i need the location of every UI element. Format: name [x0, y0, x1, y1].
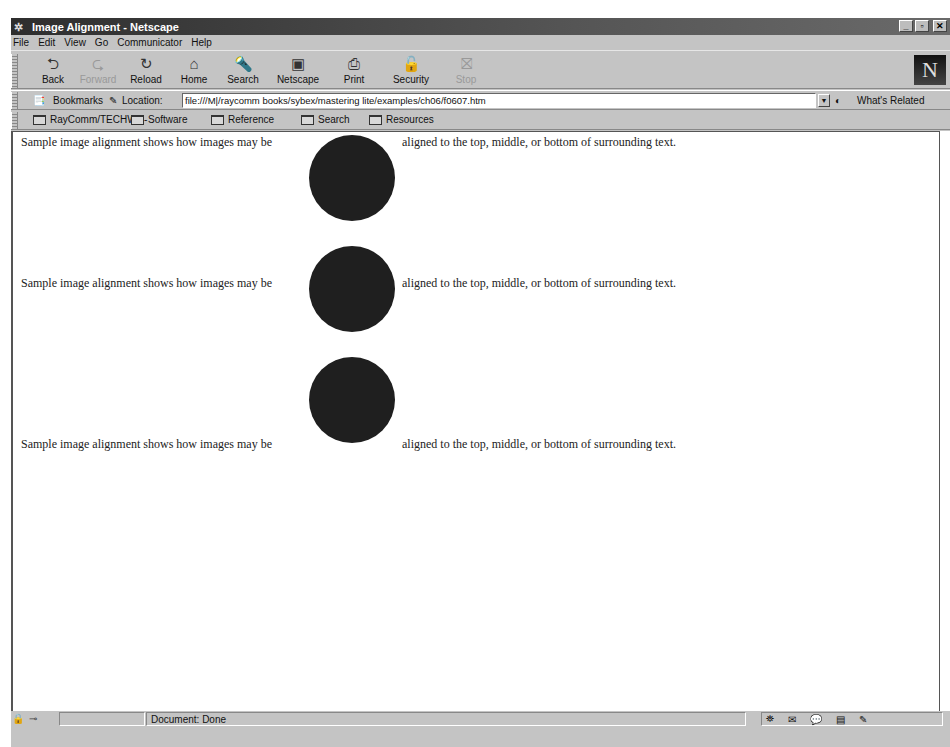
composer-icon[interactable]: ▤ [836, 714, 845, 725]
print-icon: ⎙ [348, 54, 360, 74]
stop-button[interactable]: ⛝ Stop [442, 54, 490, 88]
menu-help[interactable]: Help [191, 37, 212, 48]
composer-pen-icon[interactable]: ✎ [859, 714, 867, 725]
row-bottom-text-before: Sample image alignment shows how images … [21, 437, 272, 452]
navigation-toolbar: ⮌ Back ⮎ Forward ↻ Reload ⌂ Home 🔦 Searc… [11, 52, 950, 89]
forward-arrow-icon: ⮎ [92, 54, 104, 74]
connection-icon: ⊸ [29, 713, 37, 724]
menu-go[interactable]: Go [95, 37, 108, 48]
row-top-text-after: aligned to the top, middle, or bottom of… [402, 135, 676, 150]
browser-window: ✲ Image Alignment - Netscape _ ▫ ✕ File … [11, 18, 950, 747]
print-button[interactable]: ⎙ Print [330, 54, 378, 88]
reload-icon: ↻ [140, 54, 153, 74]
location-toolbar: 📑 Bookmarks ✎ Location: file:///M|/rayco… [11, 90, 950, 110]
status-bar: 🔒 ⊸ Document: Done ⛯ ✉ 💬 ▤ ✎ [11, 711, 950, 727]
folder-icon [33, 115, 46, 125]
whats-related-button[interactable]: What's Related [857, 95, 925, 106]
netscape-icon: ▣ [291, 54, 305, 74]
window-title: Image Alignment - Netscape [32, 21, 179, 33]
menu-file[interactable]: File [13, 37, 29, 48]
menu-view[interactable]: View [64, 37, 86, 48]
back-button[interactable]: ⮌ Back [29, 54, 77, 88]
content-right-border [939, 131, 950, 711]
home-icon: ⌂ [189, 54, 198, 74]
reload-button[interactable]: ↻ Reload [122, 54, 170, 88]
location-label: Location: [122, 95, 163, 106]
folder-icon [301, 115, 314, 125]
bookmarks-icon[interactable]: 📑 [33, 95, 45, 106]
netscape-button[interactable]: ▣ Netscape [274, 54, 322, 88]
status-text: Document: Done [146, 712, 746, 726]
url-input[interactable]: file:///M|/raycomm books/sybex/mastering… [182, 93, 816, 108]
url-dropdown-button[interactable]: ▼ [818, 94, 830, 107]
search-icon: 🔦 [234, 54, 253, 74]
menu-communicator[interactable]: Communicator [117, 37, 182, 48]
maximize-button[interactable]: ▫ [915, 20, 929, 32]
row-middle-text-after: aligned to the top, middle, or bottom of… [402, 276, 676, 291]
component-bar: ⛯ ✉ 💬 ▤ ✎ [761, 712, 943, 726]
bookmark-folder-search[interactable]: Search [301, 114, 350, 125]
folder-icon [369, 115, 382, 125]
folder-icon [211, 115, 224, 125]
bookmark-folder-reference[interactable]: Reference [211, 114, 274, 125]
minimize-button[interactable]: _ [899, 20, 913, 32]
whats-related-icon[interactable]: ◐ [835, 95, 841, 106]
forward-button[interactable]: ⮎ Forward [74, 54, 122, 88]
security-status-icon[interactable]: 🔒 [12, 713, 24, 724]
progress-bar [59, 712, 145, 726]
circle-image-bottom [309, 357, 395, 443]
discussions-icon[interactable]: 💬 [810, 714, 822, 725]
toolbar-grip[interactable] [11, 112, 18, 129]
row-top-text-before: Sample image alignment shows how images … [21, 135, 272, 150]
folder-icon [131, 115, 144, 125]
row-middle-text-before: Sample image alignment shows how images … [21, 276, 272, 291]
netscape-logo[interactable]: N [914, 55, 946, 85]
toolbar-grip[interactable] [11, 54, 18, 88]
title-bar: ✲ Image Alignment - Netscape _ ▫ ✕ [11, 18, 950, 35]
back-arrow-icon: ⮌ [47, 54, 59, 74]
mail-icon[interactable]: ✉ [788, 714, 796, 725]
close-button[interactable]: ✕ [933, 20, 947, 32]
lock-icon: 🔓 [402, 54, 421, 74]
menu-edit[interactable]: Edit [38, 37, 55, 48]
bookmarks-button[interactable]: Bookmarks [53, 95, 103, 106]
circle-image-middle [309, 246, 395, 332]
page-content: Sample image alignment shows how images … [11, 131, 939, 711]
row-bottom-text-after: aligned to the top, middle, or bottom of… [402, 437, 676, 452]
bookmark-folder-software[interactable]: Software [131, 114, 187, 125]
navigator-icon[interactable]: ⛯ [766, 713, 774, 725]
netscape-app-icon: ✲ [14, 21, 28, 33]
location-icon: ✎ [109, 95, 117, 106]
home-button[interactable]: ⌂ Home [170, 54, 218, 88]
stop-icon: ⛝ [461, 54, 472, 74]
circle-image-top [309, 135, 395, 221]
search-button[interactable]: 🔦 Search [219, 54, 267, 88]
personal-toolbar: RayComm/TECHWR- Software Reference Searc… [11, 111, 950, 130]
security-button[interactable]: 🔓 Security [387, 54, 435, 88]
toolbar-grip[interactable] [11, 92, 18, 109]
menu-bar: File Edit View Go Communicator Help [11, 35, 950, 51]
bookmark-folder-resources[interactable]: Resources [369, 114, 434, 125]
